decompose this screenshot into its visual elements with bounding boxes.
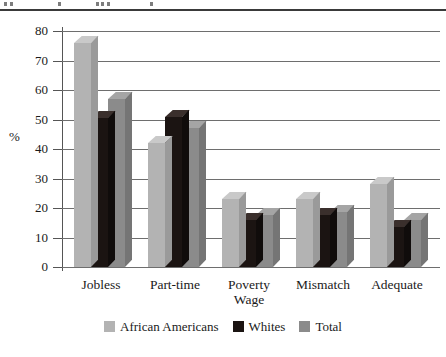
y-axis-tick-label: 50 [0,113,48,126]
bar-side-face [108,111,115,267]
chart-legend: African AmericansWhitesTotal [0,320,446,333]
legend-label: African Americans [120,320,219,333]
scan-artifact [10,2,13,6]
legend-label: Total [315,320,342,333]
y-axis-tick [53,61,62,62]
y-axis-tick-label: 0 [0,260,48,273]
bar-side-face [125,92,132,267]
x-axis-label-line: Jobless [61,277,141,292]
scan-artifact [107,2,110,6]
bar-side-face [91,36,98,267]
x-axis-label-line: Mismatch [283,277,363,292]
y-axis-tick [53,238,62,239]
bar [296,199,313,267]
plot-area [62,31,440,267]
bar-front-face [74,43,91,267]
bar-side-face [182,109,189,267]
bar-side-face [421,213,428,267]
x-axis-label-line: Part-time [135,277,215,292]
bar [74,43,91,267]
y-axis-tick [53,179,62,180]
bar-side-face [404,220,411,267]
legend-swatch [104,321,115,332]
bar-front-face [296,199,313,267]
y-axis-tick [53,90,62,91]
bar [222,199,239,267]
y-axis-tick-label: 70 [0,54,48,67]
scan-artifact [96,2,99,6]
bar-side-face [273,208,280,267]
scan-artifact [101,2,104,6]
y-axis-tick-label: 20 [0,201,48,214]
x-axis-label: Mismatch [283,277,363,292]
page-crop-specks [0,0,446,9]
bar-side-face [347,205,354,267]
y-axis-tick-label: 60 [0,83,48,96]
legend-item: African Americans [104,320,219,333]
y-axis-tick-label: 40 [0,142,48,155]
x-axis-label-line: Adequate [357,277,437,292]
y-axis-tick [53,120,62,121]
chart-figure: % 01020304050607080 JoblessPart-timePove… [0,0,446,357]
x-axis-label: PovertyWage [209,277,289,307]
legend-label: Whites [249,320,286,333]
bar-front-face [370,184,387,267]
legend-item: Whites [233,320,286,333]
bar [148,143,165,267]
legend-swatch [299,321,310,332]
x-axis-label-line: Poverty [209,277,289,292]
gridline [62,31,440,32]
x-axis-label: Part-time [135,277,215,292]
page-top-rule [0,9,446,11]
y-axis-tick [53,208,62,209]
legend-swatch [233,321,244,332]
y-axis-tick [53,149,62,150]
bar-side-face [256,213,263,267]
x-axis-label: Adequate [357,277,437,292]
y-axis-tick [53,267,62,268]
bar-side-face [199,121,206,267]
bar-side-face [387,177,394,267]
gridline [62,267,440,268]
scan-artifact [150,2,153,6]
legend-item: Total [299,320,342,333]
y-axis-tick [53,31,62,32]
bar-front-face [148,143,165,267]
gridline [62,61,440,62]
bar-front-face [222,199,239,267]
x-axis-label: Jobless [61,277,141,292]
bar-side-face [239,192,246,267]
bar-side-face [165,136,172,267]
bar [370,184,387,267]
y-axis-tick-label: 80 [0,24,48,37]
bar-side-face [313,192,320,267]
scan-artifact [4,2,7,6]
x-axis-label-line: Wage [209,292,289,307]
gridline [62,90,440,91]
y-axis-tick-label: 10 [0,231,48,244]
bar-side-face [330,208,337,267]
y-axis-tick-label: 30 [0,172,48,185]
scan-artifact [58,2,61,6]
